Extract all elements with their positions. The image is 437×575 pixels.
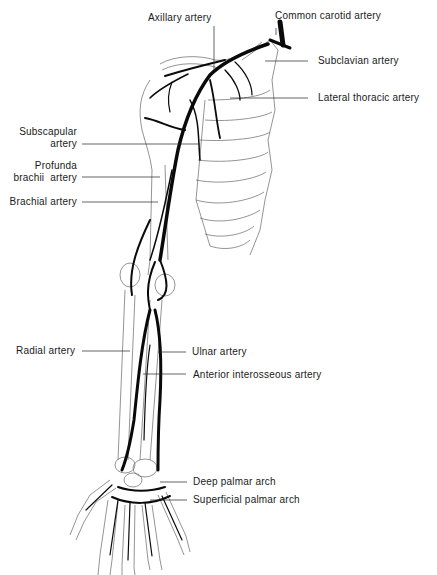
label-subscapular-line1: Subscapular: [19, 126, 77, 137]
upper-limb-arteries-diagram: [0, 0, 437, 575]
label-anterior-interosseous-artery: Anterior interosseous artery: [193, 369, 321, 380]
label-profunda-line1: Profunda: [35, 160, 77, 171]
label-ulnar-artery: Ulnar artery: [192, 346, 247, 357]
label-superficial-palmar-arch: Superficial palmar arch: [193, 494, 300, 505]
label-brachial-artery: Brachial artery: [10, 196, 77, 207]
label-subscapular-line2: artery: [50, 138, 77, 149]
label-lateral-thoracic-artery: Lateral thoracic artery: [318, 92, 419, 103]
label-radial-artery: Radial artery: [16, 345, 75, 356]
label-axillary-artery: Axillary artery: [148, 12, 212, 23]
label-common-carotid-artery: Common carotid artery: [275, 10, 381, 21]
label-subclavian-artery: Subclavian artery: [318, 55, 399, 66]
label-deep-palmar-arch: Deep palmar arch: [193, 476, 276, 487]
label-profunda-line2: brachii artery: [13, 172, 77, 183]
